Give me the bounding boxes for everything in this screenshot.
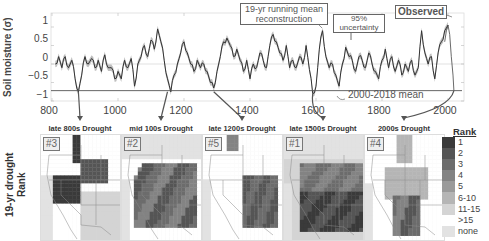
legend-label-3: 4: [458, 170, 463, 180]
uncertainty-band: [55, 22, 448, 97]
maps-y-axis-label: 19-yr drought Rank: [4, 140, 32, 230]
rank-badge-4: #1: [286, 137, 303, 151]
map-title-1: late 800s Drought: [40, 124, 120, 133]
map-title-4: late 1500s Drought: [283, 124, 363, 133]
reconstruction-annotation: 19-yr running mean reconstruction: [240, 3, 328, 25]
legend-title: Rank: [453, 126, 476, 137]
legend-swatch-6: [442, 204, 455, 215]
legend-swatch-1: [442, 148, 455, 159]
rank-badge-1: #3: [43, 137, 60, 151]
mean-annotation: 2000-2018 mean: [348, 89, 424, 100]
observed-annotation: Observed: [395, 5, 447, 19]
legend-label-8: none: [458, 226, 478, 236]
drought-map-4: #1: [283, 134, 364, 241]
legend-swatch-4: [442, 181, 455, 192]
rank-badge-3: #5: [205, 137, 222, 151]
legend-label-4: 5: [458, 181, 463, 191]
legend-colorbar: [442, 137, 455, 237]
mean-pointer: [337, 96, 345, 100]
rank-badge-2: #2: [124, 137, 141, 151]
legend-swatch-2: [442, 159, 455, 170]
tick-marks: [51, 13, 464, 101]
map-title-3: late 1200s Drought: [202, 124, 282, 133]
reconstruction-line: [55, 25, 448, 94]
legend-swatch-5: [442, 192, 455, 203]
rank-badge-5: #4: [367, 137, 384, 151]
legend-label-2: 3: [458, 159, 463, 169]
legend-label-6: 11-15: [458, 204, 480, 214]
observed-line: [445, 25, 454, 91]
drought-map-3: #5: [202, 134, 283, 241]
legend-label-0: 1: [458, 137, 463, 147]
legend-label-1: 2: [458, 148, 463, 158]
map-title-5: 2000s Drought: [364, 124, 444, 133]
drought-map-5: #4: [364, 134, 445, 241]
plot-frame: [51, 13, 464, 101]
legend-swatch-3: [442, 170, 455, 181]
legend-label-5: 6-10: [458, 193, 476, 203]
drought-map-2: #2: [121, 134, 202, 241]
map-title-2: mid 100s Drought: [121, 124, 201, 133]
legend-label-7: >15: [458, 215, 473, 225]
drought-map-1: #3: [40, 134, 121, 241]
legend-swatch-7: [442, 215, 455, 226]
uncertainty-annotation: 95% uncertainty: [333, 14, 385, 33]
legend-swatch-0: [442, 137, 455, 148]
legend-swatch-8: [442, 226, 455, 237]
